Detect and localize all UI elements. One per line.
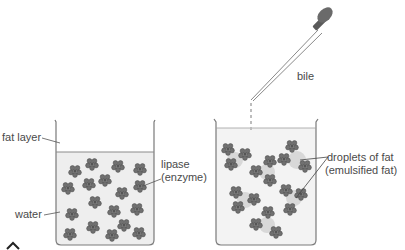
bile-dropper [251,4,336,101]
droplets-of-fat-label: droplets of fat [327,151,394,164]
right-beaker [214,103,328,245]
left-beaker [42,120,161,245]
emulsified-fat-label: (emulsified fat) [325,164,397,177]
chevron-up-icon [7,243,19,249]
fat-layer-label: fat layer [2,131,41,144]
enzyme-label: (enzyme) [161,171,207,184]
diagram-canvas [0,0,405,250]
bile-drops [250,103,252,130]
bile-label: bile [297,70,314,83]
lipase-label: lipase [161,158,190,171]
water-label: water [15,208,42,221]
